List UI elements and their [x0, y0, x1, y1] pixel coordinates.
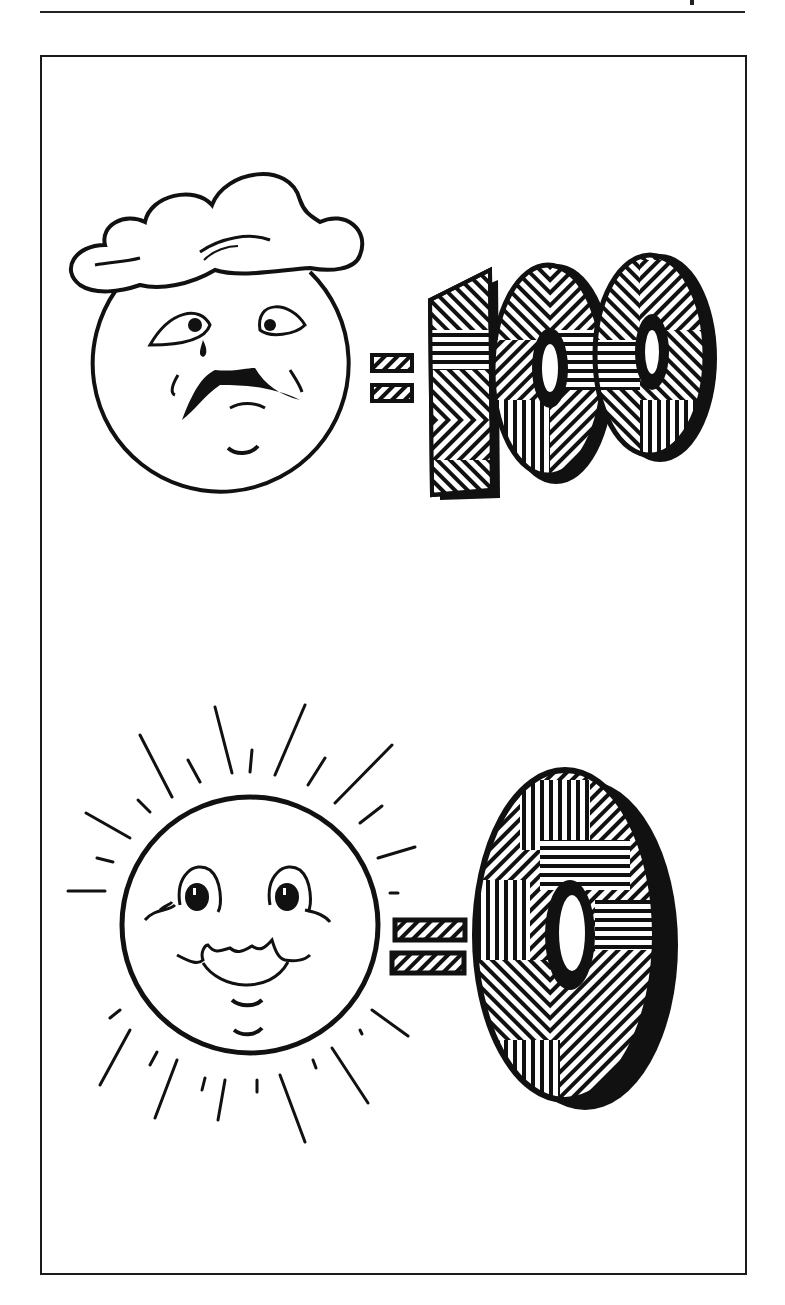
sad-sun-icon [71, 174, 362, 492]
cloud-icon [71, 174, 362, 291]
number-0-icon [470, 770, 678, 1110]
equals-sign-icon-bottom [392, 920, 465, 973]
happy-sun-icon [68, 705, 415, 1142]
number-100-icon [425, 250, 717, 500]
equals-sign-icon [372, 355, 412, 401]
illustration-canvas [0, 0, 785, 1305]
